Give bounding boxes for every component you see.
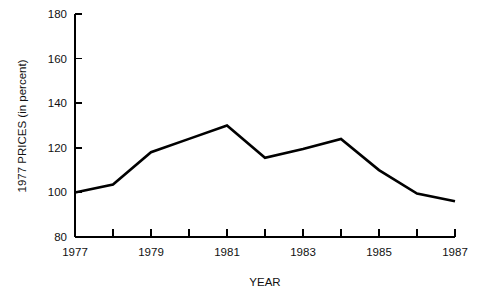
x-tick-label-1985: 1985: [366, 246, 392, 258]
y-axis-title: 1977 PRICES (in percent): [16, 59, 28, 192]
y-tick-label-140: 140: [48, 97, 67, 109]
chart-canvas: 80100120140160180 1977197919811983198519…: [0, 0, 480, 297]
y-tick-label-180: 180: [48, 8, 67, 20]
x-axis-title: YEAR: [249, 276, 280, 288]
line-chart: 80100120140160180 1977197919811983198519…: [0, 0, 480, 297]
y-tick-label-80: 80: [54, 231, 67, 243]
x-tick-label-1977: 1977: [62, 246, 88, 258]
x-tick-label-1983: 1983: [290, 246, 316, 258]
x-tick-label-1979: 1979: [138, 246, 164, 258]
x-tick-label-1987: 1987: [442, 246, 468, 258]
y-tick-label-120: 120: [48, 142, 67, 154]
x-tick-label-1981: 1981: [214, 246, 240, 258]
y-tick-label-160: 160: [48, 53, 67, 65]
y-tick-label-100: 100: [48, 186, 67, 198]
